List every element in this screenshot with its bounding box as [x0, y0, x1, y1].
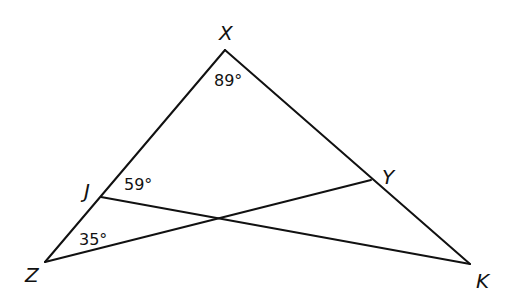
- label-y: Y: [382, 165, 396, 189]
- triangle-diagram: X J Y Z K 89° 59° 35°: [0, 0, 509, 302]
- segment-jk: [101, 197, 470, 264]
- label-k: K: [476, 269, 491, 293]
- angle-z-value: 35°: [79, 230, 107, 249]
- angle-j-value: 59°: [124, 175, 152, 194]
- label-z: Z: [24, 263, 40, 287]
- label-j: J: [80, 179, 90, 203]
- angle-x-value: 89°: [214, 71, 242, 90]
- segment-xk: [225, 50, 470, 264]
- segment-xz: [45, 50, 225, 262]
- segment-zy: [45, 180, 371, 262]
- label-x: X: [218, 21, 234, 45]
